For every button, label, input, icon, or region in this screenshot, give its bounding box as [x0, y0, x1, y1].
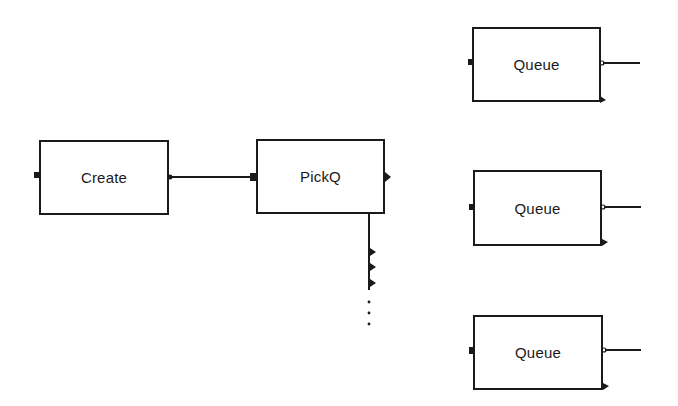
create-block[interactable]: Create — [39, 140, 169, 215]
queue-block-2[interactable]: Queue — [473, 170, 602, 246]
queue3-secondary-output[interactable] — [603, 383, 609, 390]
pickq-bus-output-1[interactable] — [370, 248, 376, 256]
queue2-secondary-output[interactable] — [602, 239, 608, 246]
queue-block-1[interactable]: Queue — [472, 27, 601, 102]
pickq-bus-output-3[interactable] — [370, 279, 376, 287]
diagram-canvas: Create PickQ Queue Queue Queue — [0, 0, 678, 406]
pickq-output-port[interactable] — [385, 172, 391, 182]
vertical-ellipsis-icon — [368, 301, 371, 326]
queue-block-3-label: Queue — [515, 344, 561, 361]
queue-block-1-label: Queue — [513, 56, 559, 73]
queue-block-3[interactable]: Queue — [473, 315, 603, 390]
pickq-block[interactable]: PickQ — [256, 139, 385, 214]
pickq-block-label: PickQ — [300, 168, 341, 185]
queue-block-2-label: Queue — [514, 200, 560, 217]
pickq-bus-output-2[interactable] — [370, 263, 376, 271]
create-block-label: Create — [81, 169, 127, 186]
